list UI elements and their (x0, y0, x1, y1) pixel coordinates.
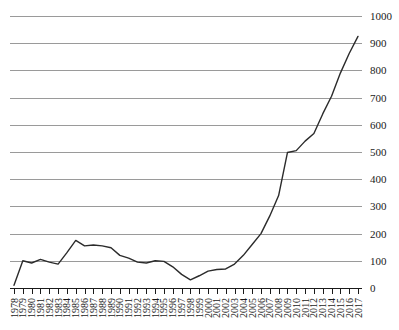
y-tick-label: 200 (370, 228, 387, 240)
gridlines-group (10, 17, 362, 289)
y-tick-label: 400 (370, 173, 387, 185)
data-series-line (14, 36, 358, 285)
y-axis-tick-labels-group: 01002003004005006007008009001000 (370, 10, 393, 294)
y-tick-label: 800 (370, 64, 387, 76)
y-tick-label: 500 (370, 146, 387, 158)
y-tick-label: 700 (370, 92, 387, 104)
y-tick-label: 0 (370, 282, 376, 294)
y-tick-label: 1000 (370, 10, 393, 22)
chart-plot-area: 01002003004005006007008009001000 1978197… (0, 0, 399, 330)
x-axis-tick-labels-group: 1978197919801981198219831984198519861987… (9, 298, 364, 318)
y-tick-label: 600 (370, 119, 387, 131)
line-chart: 01002003004005006007008009001000 1978197… (0, 0, 399, 330)
y-tick-label: 900 (370, 37, 387, 49)
x-tick-label: 2017 (353, 298, 364, 318)
y-tick-label: 300 (370, 200, 387, 212)
y-tick-label: 100 (370, 255, 387, 267)
